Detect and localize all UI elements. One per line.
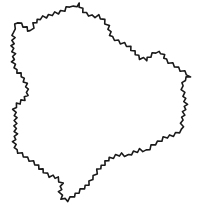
background [0, 0, 206, 208]
fractal-outline-figure [0, 0, 206, 208]
figure-canvas [0, 0, 206, 208]
